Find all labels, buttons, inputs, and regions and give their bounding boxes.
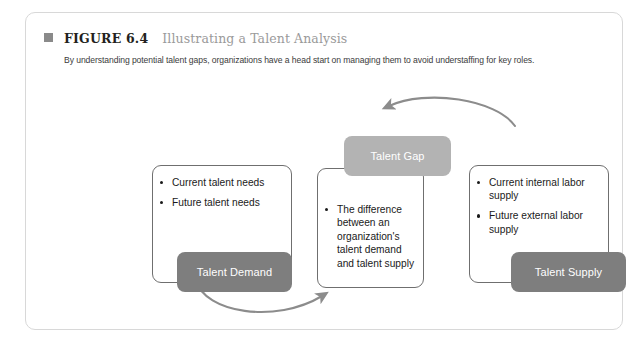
list-item: Future external labor supply <box>476 209 600 235</box>
talent-gap-box: The difference between an organization's… <box>317 168 424 288</box>
talent-supply-bullets: Current internal labor supply Future ext… <box>470 166 608 236</box>
list-item: The difference between an organization's… <box>324 203 415 270</box>
list-item: Current talent needs <box>159 176 283 189</box>
supply-to-gap-arrow <box>389 98 515 126</box>
talent-supply-tab: Talent Supply <box>511 252 626 292</box>
talent-demand-bullets: Current talent needs Future talent needs <box>153 166 291 209</box>
figure-frame: FIGURE 6.4 Illustrating a Talent Analysi… <box>25 12 623 330</box>
list-item: Current internal labor supply <box>476 176 600 202</box>
talent-analysis-diagram: Current talent needs Future talent needs… <box>26 13 624 331</box>
talent-gap-tab: Talent Gap <box>344 136 451 176</box>
talent-demand-tab: Talent Demand <box>177 252 292 292</box>
talent-gap-bullets: The difference between an organization's… <box>318 169 423 270</box>
list-item: Future talent needs <box>159 196 283 209</box>
